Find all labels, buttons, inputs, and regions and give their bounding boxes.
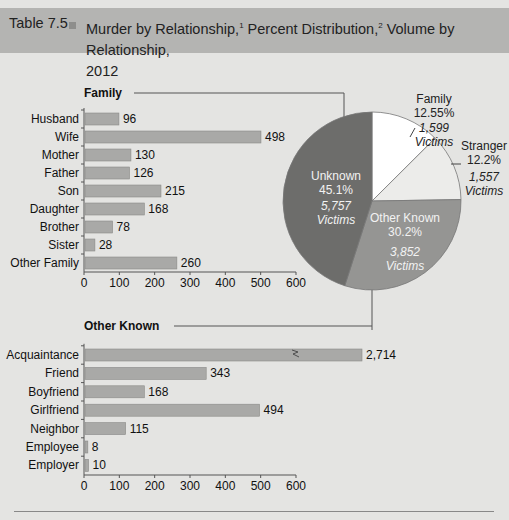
value-label: 343 — [210, 366, 230, 380]
bar-chart-title: Family — [84, 86, 122, 100]
pie-label: 1,599 — [419, 121, 449, 135]
x-tick-label: 0 — [81, 276, 88, 290]
category-label: Wife — [55, 130, 79, 144]
value-label: 215 — [165, 184, 185, 198]
pie-label: 12.55% — [414, 106, 455, 120]
value-label: 126 — [134, 166, 154, 180]
x-tick-label: 300 — [180, 276, 200, 290]
x-tick-label: 500 — [251, 479, 271, 493]
pie-label: 5,757 — [321, 199, 352, 213]
category-label: Employee — [26, 440, 80, 454]
pie-label: Victims — [465, 184, 503, 198]
x-tick-label: 600 — [286, 276, 306, 290]
category-label: Girlfriend — [30, 403, 79, 417]
category-label: Neighbor — [30, 422, 79, 436]
bar — [85, 386, 144, 398]
category-label: Husband — [31, 112, 79, 126]
bar — [85, 203, 144, 215]
x-tick-label: 400 — [215, 276, 235, 290]
x-tick-label: 0 — [81, 479, 88, 493]
x-tick-label: 200 — [145, 276, 165, 290]
bar — [85, 459, 89, 471]
value-label: 96 — [123, 112, 137, 126]
x-tick-label: 100 — [109, 479, 129, 493]
value-label: 78 — [117, 220, 131, 234]
bar — [85, 367, 206, 379]
value-label: 260 — [181, 256, 201, 270]
bar — [85, 113, 119, 125]
category-label: Mother — [42, 148, 79, 162]
category-label: Daughter — [30, 202, 79, 216]
value-label: 168 — [148, 385, 168, 399]
pie-label: Victims — [317, 213, 355, 227]
bar — [85, 221, 113, 233]
x-tick-label: 600 — [286, 479, 306, 493]
bar — [85, 149, 131, 161]
value-label: 498 — [265, 130, 285, 144]
chart-canvas: FamilyHusband96Wife498Mother130Father126… — [0, 0, 509, 520]
value-label: 28 — [99, 238, 113, 252]
pie-label: Other Known — [370, 211, 440, 225]
category-label: Friend — [45, 366, 79, 380]
pie-label: 45.1% — [319, 183, 353, 197]
category-label: Sister — [48, 238, 79, 252]
pie-label: Family — [416, 92, 451, 106]
pie-label: 30.2% — [388, 225, 422, 239]
category-label: Brother — [40, 220, 79, 234]
footer-divider — [14, 511, 494, 512]
category-label: Son — [58, 184, 79, 198]
bar-chart-title: Other Known — [84, 319, 159, 333]
value-label: 168 — [148, 202, 168, 216]
bar — [85, 185, 161, 197]
pie-label: Unknown — [311, 169, 361, 183]
pie-label: Victims — [415, 135, 453, 149]
value-label: 115 — [130, 422, 149, 436]
x-tick-label: 500 — [251, 276, 271, 290]
pie-label: 1,557 — [469, 170, 500, 184]
bar — [85, 257, 177, 269]
pie-label: 12.2% — [467, 153, 501, 167]
pie-label: Stranger — [461, 139, 507, 153]
category-label: Employer — [28, 458, 79, 472]
bar — [85, 167, 130, 179]
bar — [85, 404, 260, 416]
value-label: 2,714 — [366, 348, 396, 362]
bar — [85, 131, 261, 143]
value-label: 10 — [93, 458, 107, 472]
category-label: Other Family — [10, 256, 79, 270]
x-tick-label: 400 — [215, 479, 235, 493]
x-tick-label: 100 — [109, 276, 129, 290]
bar — [85, 349, 362, 361]
value-label: 8 — [92, 440, 99, 454]
bar — [85, 441, 88, 453]
category-label: Boyfriend — [28, 385, 79, 399]
x-tick-label: 300 — [180, 479, 200, 493]
x-tick-label: 200 — [145, 479, 165, 493]
bar — [85, 423, 126, 435]
pie-label: Victims — [386, 259, 424, 273]
category-label: Acquaintance — [6, 348, 79, 362]
value-label: 494 — [264, 403, 284, 417]
category-label: Father — [44, 166, 79, 180]
bar — [85, 239, 95, 251]
pie-label: 3,852 — [390, 245, 420, 259]
value-label: 130 — [135, 148, 155, 162]
